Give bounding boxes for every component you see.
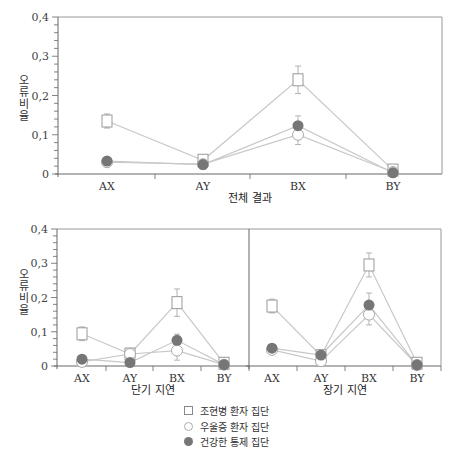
x-tick-label: BX [290,180,306,193]
series-line [82,351,224,365]
square-marker-icon [77,328,87,340]
chart-long-delay: AXAYBXBY [246,229,441,385]
x-tick-label: AY [195,180,211,193]
filled-circle-marker-icon [267,343,278,354]
filled-circle-marker-icon [316,350,327,361]
y-tick-label: 0,3 [31,257,49,270]
legend-item-schizophrenia: 조현병 환자 집단 [184,403,269,419]
filled-circle-marker-icon [77,354,88,365]
x-tick-label: BY [385,180,401,193]
square-marker-icon [364,259,374,271]
y-tick-label: 0,2 [31,292,49,305]
series-line [107,135,393,172]
filled-circle-marker-icon [125,357,136,368]
y-tick-label: 0 [41,360,48,373]
legend-label: 조현병 환자 집단 [200,403,269,418]
x-tick-label: BY [409,372,425,385]
open-circle-marker-icon [172,345,183,356]
x-tick-label: BY [216,372,232,385]
y-tick-label: 0,1 [32,129,50,142]
legend-item-healthy-control: 건강한 통제 집단 [184,434,269,450]
figure-canvas: 00,10,20,30,4AXAYBXBY00,10,20,30,4AXAYBX… [0,0,453,464]
x-title-overall: 전체 결과 [228,189,272,205]
series-line [272,305,417,365]
chart-overall: 00,10,20,30,4AXAYBXBY [32,11,443,193]
x-tick-label: AX [73,372,90,385]
legend-label: 건강한 통제 집단 [200,434,269,449]
y-axis-label-bottom: 오류비율 [14,268,30,316]
series-line [272,315,417,365]
filled-circle-marker-icon [412,359,423,370]
filled-circle-marker-icon [172,335,183,346]
y-axis-label-top: 오류비율 [14,74,30,122]
square-marker-icon [267,300,277,312]
square-marker-icon [172,297,182,309]
chart-short-delay: 00,10,20,30,4AXAYBXBY [31,223,250,385]
x-tick-label: AX [263,372,280,385]
legend: 조현병 환자 집단 우울증 환자 집단 건강한 통제 집단 [184,403,269,450]
filled-circle-marker-icon [388,167,399,178]
open-circle-marker-icon [184,422,193,431]
y-tick-label: 0,1 [31,326,49,339]
filled-circle-marker-icon [198,159,209,170]
filled-circle-marker-icon [102,156,113,167]
legend-label: 우울증 환자 집단 [200,419,269,434]
filled-circle-marker-icon [364,300,375,311]
filled-circle-marker-icon [293,120,304,131]
square-marker-icon [102,115,112,127]
open-circle-marker-icon [364,309,375,320]
x-title-long-delay: 장기 지연 [323,381,367,397]
x-title-short-delay: 단기 지연 [131,381,175,397]
filled-circle-marker-icon [184,437,193,446]
series-line [107,80,393,170]
y-tick-label: 0 [42,168,49,181]
square-marker-icon [293,74,303,86]
x-tick-label: AX [98,180,115,193]
y-tick-label: 0,4 [31,223,49,236]
y-tick-label: 0,3 [32,50,50,63]
filled-circle-marker-icon [219,359,230,370]
y-tick-label: 0,2 [32,90,50,103]
series-line [272,265,417,363]
y-tick-label: 0,4 [32,11,50,24]
square-marker-icon [184,406,193,415]
legend-item-depression: 우울증 환자 집단 [184,419,269,435]
